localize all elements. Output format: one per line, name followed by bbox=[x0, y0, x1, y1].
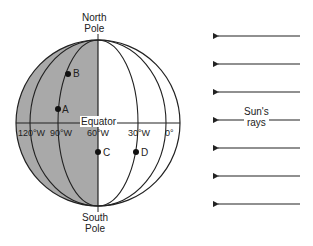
sun-rays-label: Sun's rays bbox=[244, 106, 269, 128]
longitude-60w: 60°W bbox=[87, 128, 109, 139]
longitude-30w: 30°W bbox=[128, 128, 150, 139]
point-b bbox=[65, 71, 71, 77]
point-d bbox=[133, 149, 139, 155]
point-c-label: C bbox=[103, 147, 110, 158]
point-c bbox=[95, 149, 101, 155]
south-pole-label: South Pole bbox=[82, 212, 108, 234]
longitude-0: 0° bbox=[165, 128, 174, 139]
longitude-90w: 90°W bbox=[50, 128, 72, 139]
north-pole-label: North Pole bbox=[82, 12, 106, 34]
point-b-label: B bbox=[73, 68, 80, 79]
equator-label: Equator bbox=[80, 116, 117, 127]
point-a-label: A bbox=[62, 104, 69, 115]
longitude-120w: 120°W bbox=[18, 128, 45, 139]
point-d-label: D bbox=[141, 147, 148, 158]
point-a bbox=[55, 106, 61, 112]
